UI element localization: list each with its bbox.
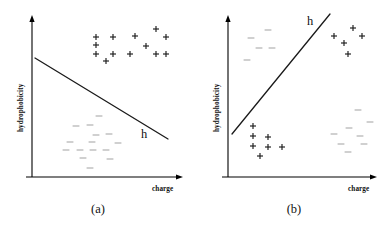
data-point-positive	[341, 40, 347, 46]
data-point-positive	[265, 144, 271, 150]
data-point-positive	[103, 58, 109, 64]
data-point-positive	[153, 51, 159, 57]
panel-b: hydrophobicity charge h (b)	[196, 0, 392, 232]
panel-a-caption: (a)	[0, 203, 196, 216]
data-point-positive	[250, 123, 256, 129]
panel-a-plot	[0, 0, 196, 232]
panel-b-x-axis-label: charge	[348, 186, 369, 193]
data-point-positive	[350, 25, 356, 31]
data-point-positive	[110, 34, 116, 40]
data-point-positive	[359, 33, 365, 39]
y-axis-arrow-icon	[225, 15, 230, 22]
panel-a: hydrophobicity charge h (a)	[0, 0, 196, 232]
data-point-positive	[153, 26, 159, 32]
x-axis-arrow-icon	[176, 174, 183, 179]
data-point-positive	[143, 43, 149, 49]
panel-b-hypothesis-label: h	[307, 15, 313, 28]
data-point-positive	[127, 51, 133, 57]
data-point-positive	[163, 51, 169, 57]
data-point-positive	[132, 33, 138, 39]
data-point-positive	[93, 34, 99, 40]
panel-b-y-axis-label: hydrophobicity	[214, 84, 221, 132]
data-point-positive	[93, 42, 99, 48]
figure-container: hydrophobicity charge h (a) hydrophobici…	[0, 0, 392, 232]
panel-b-plot	[196, 0, 392, 232]
hypothesis-decision-line	[232, 14, 330, 134]
data-point-positive	[250, 133, 256, 139]
data-point-positive	[345, 51, 351, 57]
x-axis-arrow-icon	[370, 174, 377, 179]
data-point-positive	[163, 34, 169, 40]
panel-a-x-axis-label: charge	[152, 186, 173, 193]
data-point-positive	[250, 143, 256, 149]
y-axis-arrow-icon	[29, 15, 34, 22]
panel-b-caption: (b)	[196, 203, 392, 216]
data-point-positive	[110, 51, 116, 57]
data-point-positive	[279, 144, 285, 150]
data-point-positive	[265, 134, 271, 140]
panel-a-hypothesis-label: h	[141, 128, 147, 141]
data-point-positive	[331, 33, 337, 39]
data-point-positive	[93, 51, 99, 57]
panel-a-y-axis-label: hydrophobicity	[18, 84, 25, 132]
data-point-positive	[257, 153, 263, 159]
hypothesis-decision-line	[35, 58, 168, 139]
